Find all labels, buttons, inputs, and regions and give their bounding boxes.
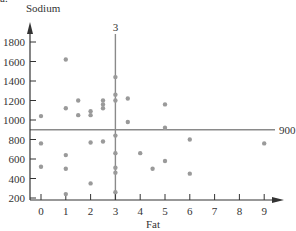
- data-point: [88, 109, 92, 113]
- data-point: [113, 170, 117, 174]
- y-tick-label: 1600: [3, 56, 26, 68]
- data-point: [188, 137, 192, 141]
- x-axis-title: Fat: [146, 218, 160, 230]
- data-point: [39, 141, 43, 145]
- y-tick-label: 400: [9, 173, 26, 185]
- data-point: [163, 126, 167, 130]
- data-point: [126, 120, 130, 124]
- y-tick-label: 1200: [3, 95, 26, 107]
- data-point: [126, 96, 130, 100]
- data-point: [113, 92, 117, 96]
- data-point: [138, 151, 142, 155]
- data-point: [76, 98, 80, 102]
- y-axis-title: Sodium: [26, 2, 61, 14]
- x-tick-label: 2: [88, 205, 94, 217]
- data-point: [113, 190, 117, 194]
- x-tick-label: 9: [261, 205, 267, 217]
- data-point: [113, 133, 117, 137]
- data-point: [64, 192, 68, 196]
- scatter-chart: 3900 20040060080010001200140016001800012…: [0, 0, 296, 231]
- data-point: [88, 140, 92, 144]
- data-point: [163, 102, 167, 106]
- data-point: [76, 113, 80, 117]
- y-axis-arrow-icon: [27, 22, 33, 34]
- data-point: [163, 159, 167, 163]
- data-point: [88, 113, 92, 117]
- x-tick-label: 8: [237, 205, 243, 217]
- vertical-reference-label: 3: [113, 21, 119, 33]
- y-tick-label: 1000: [3, 114, 26, 126]
- data-point: [101, 139, 105, 143]
- data-point: [113, 151, 117, 155]
- y-tick-label: 600: [9, 153, 26, 165]
- data-point: [101, 102, 105, 106]
- data-point: [150, 167, 154, 171]
- x-tick-label: 7: [212, 205, 218, 217]
- y-tick-label: 1800: [3, 36, 26, 48]
- x-tick-label: 3: [113, 205, 119, 217]
- x-tick-label: 6: [187, 205, 193, 217]
- data-point: [113, 98, 117, 102]
- data-point: [101, 98, 105, 102]
- data-point: [188, 171, 192, 175]
- x-tick-label: 4: [137, 205, 143, 217]
- data-point: [39, 114, 43, 118]
- y-tick-label: 200: [9, 192, 26, 204]
- x-tick-label: 0: [38, 205, 44, 217]
- data-points: [39, 57, 267, 196]
- data-point: [262, 141, 266, 145]
- data-point: [101, 106, 105, 110]
- horizontal-reference-label: 900: [279, 124, 296, 136]
- axes: [27, 22, 284, 203]
- data-point: [64, 153, 68, 157]
- x-axis-arrow-icon: [272, 197, 284, 203]
- y-tick-label: 1400: [3, 75, 26, 87]
- y-tick-label: 800: [9, 134, 26, 146]
- data-point: [64, 106, 68, 110]
- x-tick-label: 5: [162, 205, 168, 217]
- data-point: [113, 75, 117, 79]
- data-point: [39, 165, 43, 169]
- x-tick-label: 1: [63, 205, 69, 217]
- data-point: [88, 181, 92, 185]
- data-point: [113, 166, 117, 170]
- data-point: [64, 167, 68, 171]
- reference-lines: 3900: [30, 21, 296, 200]
- data-point: [64, 57, 68, 61]
